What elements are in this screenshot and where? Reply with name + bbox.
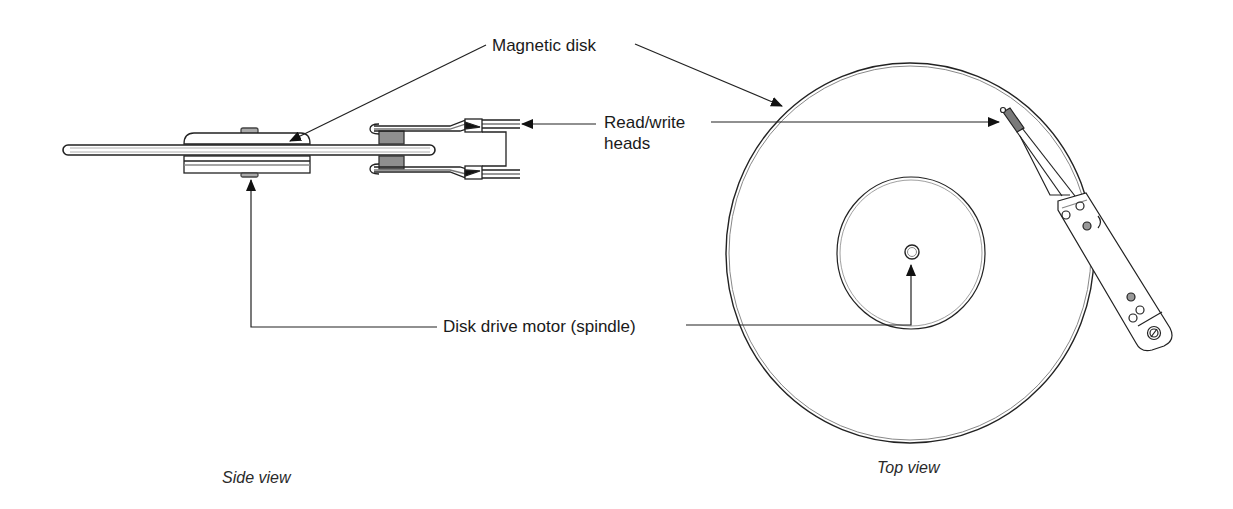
- caption-top-view: Top view: [877, 457, 940, 478]
- disk-drive-diagram: [0, 0, 1233, 509]
- top-view-drawing: [726, 63, 1172, 443]
- side-view-drawing: [63, 119, 520, 179]
- label-read-write-heads-line2: heads: [604, 133, 650, 154]
- label-spindle-motor: Disk drive motor (spindle): [443, 316, 636, 337]
- label-read-write-heads-line1: Read/write: [604, 112, 685, 133]
- label-magnetic-disk: Magnetic disk: [492, 35, 596, 56]
- caption-side-view: Side view: [222, 467, 290, 488]
- leader-lines: [251, 44, 999, 327]
